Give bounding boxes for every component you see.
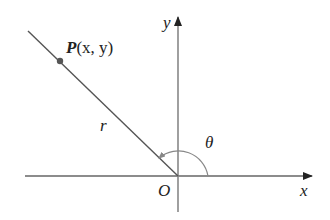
point-label: P(x, y) — [65, 38, 113, 57]
point-p-marker — [57, 58, 63, 64]
x-axis-label: x — [299, 181, 308, 200]
radius-label: r — [100, 116, 107, 135]
y-axis-label: y — [161, 13, 171, 32]
polar-diagram: P(x, y) r θ O x y — [0, 0, 330, 220]
theta-arc-icon — [159, 151, 208, 176]
theta-label: θ — [205, 133, 213, 152]
origin-label: O — [158, 181, 170, 200]
